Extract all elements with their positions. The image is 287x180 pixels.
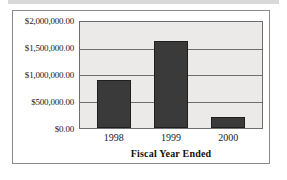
bar-slot [200, 22, 256, 128]
plot-area [79, 21, 263, 129]
bar-slot [86, 22, 142, 128]
chart-page: $2,000,000.00 $1,500,000.00 $1,000,000.0… [0, 0, 287, 180]
bar-1998 [97, 80, 131, 128]
y-axis-tick-label: $2,000,000.00 [25, 16, 74, 26]
figure-frame: $2,000,000.00 $1,500,000.00 $1,000,000.0… [12, 10, 270, 164]
y-axis-labels: $2,000,000.00 $1,500,000.00 $1,000,000.0… [13, 21, 77, 129]
bar-chart: $2,000,000.00 $1,500,000.00 $1,000,000.0… [13, 11, 271, 165]
x-axis-title: Fiscal Year Ended [79, 148, 263, 159]
y-axis-tick-label: $1,500,000.00 [25, 43, 74, 53]
x-axis-tick-label: 1998 [85, 132, 142, 143]
bar-slot [143, 22, 199, 128]
y-axis-tick-label: $0.00 [55, 124, 74, 134]
bar-series [80, 22, 262, 128]
x-axis-tick-label: 1999 [143, 132, 200, 143]
bar-1999 [154, 41, 188, 128]
x-axis-tick-label: 2000 [200, 132, 257, 143]
y-axis-tick-label: $500,000.00 [31, 97, 74, 107]
page-top-band [8, 0, 279, 4]
x-axis-labels: 1998 1999 2000 [79, 132, 263, 143]
y-axis-tick-label: $1,000,000.00 [25, 70, 74, 80]
bar-2000 [211, 117, 245, 128]
